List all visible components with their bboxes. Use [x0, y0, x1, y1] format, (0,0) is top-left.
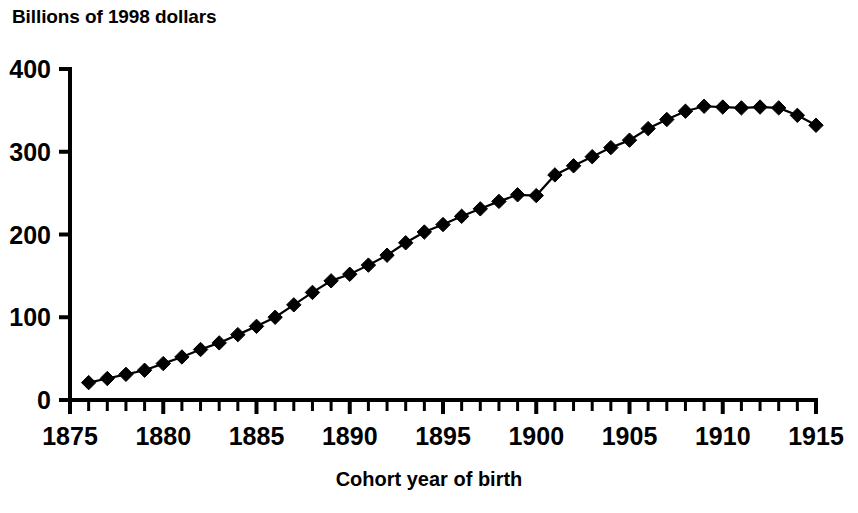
data-point-marker: [119, 367, 133, 381]
data-point-marker: [100, 371, 114, 385]
data-point-marker: [566, 159, 580, 173]
data-point-marker: [585, 150, 599, 164]
data-point-marker: [193, 342, 207, 356]
data-point-marker: [473, 202, 487, 216]
data-point-marker: [137, 363, 151, 377]
data-point-marker: [287, 298, 301, 312]
data-point-marker: [510, 188, 524, 202]
data-point-marker: [622, 133, 636, 147]
data-point-marker: [641, 121, 655, 135]
data-point-marker: [809, 118, 823, 132]
chart-figure: Billions of 1998 dollars 0100200300400 1…: [0, 0, 858, 513]
y-axis-tick-label: 0: [37, 386, 51, 414]
x-axis-tick-label: 1895: [415, 422, 471, 450]
x-axis-tick-label: 1900: [508, 422, 564, 450]
data-point-marker: [753, 100, 767, 114]
y-axis-tick-label: 200: [9, 221, 51, 249]
data-point-marker: [231, 327, 245, 341]
data-point-marker: [343, 267, 357, 281]
data-point-marker: [212, 336, 226, 350]
data-point-marker: [417, 225, 431, 239]
y-axis-tick-label: 100: [9, 303, 51, 331]
y-axis-tick-label: 300: [9, 138, 51, 166]
x-axis-tick-label: 1885: [229, 422, 285, 450]
x-axis-tick-label: 1875: [42, 422, 98, 450]
data-point-marker: [772, 101, 786, 115]
series-line: [89, 106, 816, 382]
data-point-marker: [660, 112, 674, 126]
data-point-marker: [492, 194, 506, 208]
data-point-marker: [156, 356, 170, 370]
x-axis-tick-label: 1910: [695, 422, 751, 450]
data-series: [81, 99, 823, 390]
data-point-marker: [734, 101, 748, 115]
x-axis-tick-label: 1915: [788, 422, 844, 450]
data-point-marker: [716, 100, 730, 114]
data-point-marker: [790, 108, 804, 122]
data-point-marker: [175, 350, 189, 364]
data-point-marker: [604, 140, 618, 154]
data-point-marker: [697, 99, 711, 113]
y-axis: 0100200300400: [9, 55, 70, 414]
data-point-marker: [399, 236, 413, 250]
x-axis: 187518801885189018951900190519101915: [42, 400, 844, 450]
plot-area: 0100200300400 18751880188518901895190019…: [0, 0, 858, 513]
data-point-marker: [249, 319, 263, 333]
data-point-marker: [81, 375, 95, 389]
x-axis-title: Cohort year of birth: [0, 468, 858, 491]
x-axis-tick-label: 1880: [135, 422, 191, 450]
data-point-marker: [380, 248, 394, 262]
data-point-marker: [436, 217, 450, 231]
data-point-marker: [678, 104, 692, 118]
data-point-marker: [454, 209, 468, 223]
x-axis-tick-label: 1905: [602, 422, 658, 450]
data-point-marker: [268, 310, 282, 324]
data-point-marker: [305, 285, 319, 299]
y-axis-tick-label: 400: [9, 55, 51, 83]
data-point-marker: [324, 274, 338, 288]
x-axis-tick-label: 1890: [322, 422, 378, 450]
data-point-marker: [361, 258, 375, 272]
